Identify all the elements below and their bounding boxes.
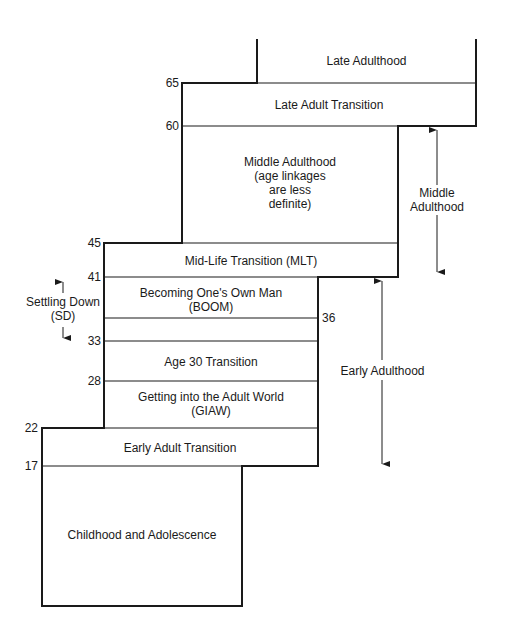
settling-down-line-2: (SD) (18, 309, 108, 323)
period-mid-life-transition: Mid-Life Transition (MLT) (104, 254, 398, 268)
giaw-line-1: Getting into the Adult World (104, 390, 318, 404)
period-childhood-adolescence: Childhood and Adolescence (42, 528, 242, 542)
middle-adulthood-line-4: definite) (182, 197, 398, 211)
boom-line-1: Becoming One's Own Man (104, 286, 318, 300)
era-settling-down: Settling Down (SD) (18, 295, 108, 323)
age-label-36: 36 (322, 311, 346, 325)
age-label-22: 22 (14, 421, 38, 435)
settling-down-line-1: Settling Down (18, 295, 108, 309)
middle-era-line-2: Adulthood (407, 200, 467, 214)
period-age-30-transition: Age 30 Transition (104, 355, 318, 369)
era-early-adulthood: Early Adulthood (335, 364, 430, 378)
age-label-45: 45 (77, 236, 101, 250)
age-label-33: 33 (77, 334, 101, 348)
era-middle-adulthood: Middle Adulthood (407, 186, 467, 214)
age-label-41: 41 (77, 270, 101, 284)
staircase-outline (42, 40, 476, 606)
middle-adulthood-line-3: are less (182, 183, 398, 197)
age-label-17: 17 (14, 459, 38, 473)
middle-era-line-1: Middle (407, 186, 467, 200)
period-late-adulthood: Late Adulthood (257, 54, 476, 68)
age-label-28: 28 (77, 374, 101, 388)
giaw-line-2: (GIAW) (104, 404, 318, 418)
age-label-65: 65 (155, 76, 179, 90)
boom-line-2: (BOOM) (104, 300, 318, 314)
period-middle-adulthood: Middle Adulthood (age linkages are less … (182, 155, 398, 211)
middle-adulthood-line-2: (age linkages (182, 169, 398, 183)
period-giaw: Getting into the Adult World (GIAW) (104, 390, 318, 418)
age-label-60: 60 (155, 119, 179, 133)
period-early-adult-transition: Early Adult Transition (42, 441, 318, 455)
period-late-adult-transition: Late Adult Transition (182, 98, 476, 112)
middle-adulthood-line-1: Middle Adulthood (182, 155, 398, 169)
period-boom: Becoming One's Own Man (BOOM) (104, 286, 318, 314)
